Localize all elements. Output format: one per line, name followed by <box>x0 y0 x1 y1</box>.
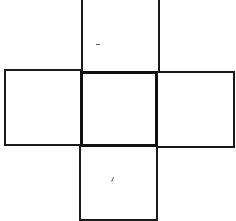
top-square <box>81 0 160 73</box>
bottom-square <box>79 145 158 221</box>
center-square <box>80 71 158 147</box>
right-square <box>156 71 235 148</box>
mark <box>96 44 100 45</box>
left-square <box>4 69 83 146</box>
